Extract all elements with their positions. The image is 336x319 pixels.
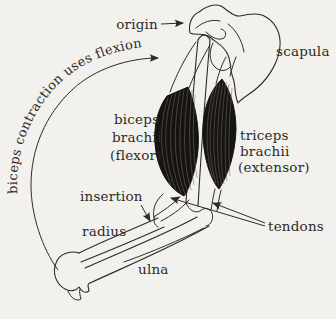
scapula-label: scapula [276,43,330,59]
tendons-label: tendons [268,218,324,234]
svg-text:brachii: brachii [240,143,290,159]
anatomy-diagram: biceps contraction uses flexion origin s… [0,0,336,319]
ulna-label: ulna [138,261,169,277]
svg-text:biceps: biceps [114,111,159,127]
svg-text:(extensor): (extensor) [238,159,310,175]
svg-text:brachii: brachii [112,129,162,145]
svg-text:triceps: triceps [240,127,289,143]
svg-text:(flexor): (flexor) [110,147,162,163]
origin-label: origin [116,16,158,32]
radius-label: radius [82,223,126,239]
insertion-label: insertion [80,188,143,204]
biceps-label: biceps brachii (flexor) [110,111,162,163]
